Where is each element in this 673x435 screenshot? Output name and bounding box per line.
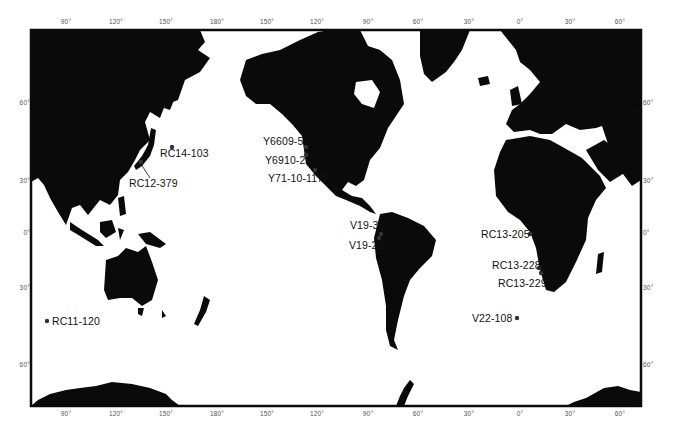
north-america: [240, 30, 404, 214]
australia: [104, 246, 158, 306]
lon-tick-bottom-1: 120°: [109, 410, 123, 417]
station-dot-v19-30[interactable]: [379, 232, 383, 236]
lon-tick-top-2: 150°: [159, 18, 173, 25]
south-america: [374, 212, 436, 350]
lon-tick-bottom-5: 120°: [310, 410, 324, 417]
lat-tick-left-2: 0°: [23, 229, 30, 236]
british-isles: [510, 86, 522, 106]
lon-tick-bottom-11: 60°: [615, 410, 625, 417]
station-label-y71-10-117p[interactable]: Y71-10-117P: [268, 172, 330, 184]
station-dot-y6609-5[interactable]: [304, 145, 308, 149]
lon-tick-bottom-6: 90°: [363, 410, 373, 417]
tasmania: [162, 310, 166, 318]
station-dot-rc11-120[interactable]: [45, 319, 49, 323]
lat-tick-right-2: 0°: [643, 229, 650, 236]
lon-tick-top-7: 60°: [413, 18, 423, 25]
lat-tick-left-3: 30°: [20, 284, 30, 291]
lon-tick-top-10: 30°: [565, 18, 575, 25]
station-label-v19-29[interactable]: V19-29: [349, 239, 383, 251]
lat-tick-left-0: 60°: [20, 99, 30, 106]
world-map: 90° 120° 150° 180° 150° 120° 90° 60° 30°…: [0, 0, 673, 435]
antarctica-left: [31, 382, 180, 406]
new-guinea: [138, 232, 166, 248]
map-canvas: [0, 0, 673, 435]
lat-tick-right-1: 30°: [643, 177, 653, 184]
antarctica-peninsula: [396, 380, 414, 406]
station-label-rc13-205[interactable]: RC13-205: [481, 228, 530, 240]
station-label-rc13-228[interactable]: RC13-228: [492, 259, 541, 271]
sulawesi: [118, 228, 124, 240]
indonesia: [70, 222, 104, 246]
landmasses: [31, 30, 641, 406]
lon-tick-top-11: 60°: [615, 18, 625, 25]
lon-tick-top-4: 150°: [260, 18, 274, 25]
station-dot-rc12-379[interactable]: [139, 160, 143, 164]
lon-tick-top-0: 90°: [61, 18, 71, 25]
lon-tick-top-8: 30°: [464, 18, 474, 25]
lon-tick-bottom-8: 30°: [464, 410, 474, 417]
lon-tick-top-6: 90°: [363, 18, 373, 25]
lon-tick-bottom-4: 150°: [260, 410, 274, 417]
borneo: [100, 220, 116, 238]
lon-tick-bottom-7: 60°: [413, 410, 423, 417]
station-label-rc14-103[interactable]: RC14-103: [160, 147, 209, 159]
station-label-v19-30[interactable]: V19-30: [350, 219, 384, 231]
station-dot-v22-108[interactable]: [515, 316, 519, 320]
lon-tick-bottom-10: 30°: [565, 410, 575, 417]
station-label-y6910-2[interactable]: Y6910-2: [265, 154, 305, 166]
station-label-rc12-379[interactable]: RC12-379: [129, 177, 178, 189]
lon-tick-top-5: 120°: [310, 18, 324, 25]
station-dot-rc13-229[interactable]: [539, 271, 543, 275]
lat-tick-right-3: 30°: [643, 284, 653, 291]
philippines: [118, 196, 126, 216]
lon-tick-bottom-0: 90°: [61, 410, 71, 417]
antarctica-right: [566, 386, 641, 406]
lon-tick-bottom-9: 0°: [517, 410, 524, 417]
lon-tick-bottom-2: 150°: [159, 410, 173, 417]
tasmania-2: [138, 308, 144, 316]
lat-tick-right-4: 60°: [643, 361, 653, 368]
lon-tick-top-3: 180°: [210, 18, 224, 25]
station-label-y6609-5[interactable]: Y6609-5: [263, 135, 303, 147]
lat-tick-left-1: 30°: [20, 177, 30, 184]
station-label-rc13-229[interactable]: RC13-229: [498, 277, 547, 289]
lat-tick-left-4: 60°: [20, 361, 30, 368]
greenland: [420, 30, 470, 82]
asia-landmass: [31, 30, 210, 225]
iceland: [478, 76, 490, 86]
lon-tick-top-1: 120°: [109, 18, 123, 25]
new-zealand: [194, 296, 210, 326]
station-label-rc11-120[interactable]: RC11-120: [52, 315, 100, 327]
lon-tick-top-9: 0°: [517, 18, 524, 25]
station-label-v22-108[interactable]: V22-108: [472, 312, 512, 324]
lon-tick-bottom-3: 180°: [210, 410, 224, 417]
madagascar: [596, 252, 604, 274]
lat-tick-right-0: 60°: [643, 99, 653, 106]
leader-line-rc12-379: [141, 164, 150, 178]
